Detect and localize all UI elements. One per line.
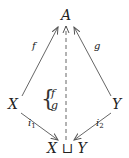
label-i2: i2	[96, 118, 104, 130]
brace-items: f g	[51, 88, 58, 112]
node-Y: Y	[112, 97, 121, 111]
label-i1: i1	[28, 118, 36, 130]
label-f: f	[32, 41, 36, 51]
brace-item-g: g	[51, 100, 58, 112]
arrow-i2	[74, 113, 111, 140]
label-g: g	[94, 41, 100, 51]
arrow-g	[74, 27, 111, 96]
diagram-arrows	[0, 0, 129, 158]
arrow-i1	[21, 113, 58, 140]
node-coproduct: X ⊔ Y	[47, 141, 87, 155]
node-A: A	[61, 8, 71, 22]
node-X: X	[8, 97, 18, 111]
